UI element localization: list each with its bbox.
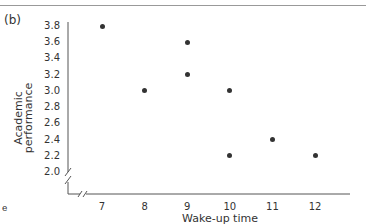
data-point [270, 137, 275, 142]
y-tick-label: 2.0 [30, 167, 60, 177]
y-axis-label: Academic performance [14, 56, 34, 180]
y-tick-label: 3.2 [30, 70, 60, 80]
data-point [185, 40, 190, 45]
x-tick-label: 7 [92, 202, 112, 212]
data-point [313, 153, 318, 158]
y-tick-label: 3.8 [30, 21, 60, 31]
x-tick-label: 11 [262, 202, 282, 212]
y-tick-label: 3.6 [30, 37, 60, 47]
data-point [100, 24, 105, 29]
x-tick-label: 9 [177, 202, 197, 212]
y-tick-label: 3.4 [30, 53, 60, 63]
x-tick-label: 10 [220, 202, 240, 212]
x-tick-label: 8 [135, 202, 155, 212]
x-tick-label: 12 [305, 202, 325, 212]
data-point [185, 72, 190, 77]
x-axis-label: Wake-up time [160, 214, 280, 224]
